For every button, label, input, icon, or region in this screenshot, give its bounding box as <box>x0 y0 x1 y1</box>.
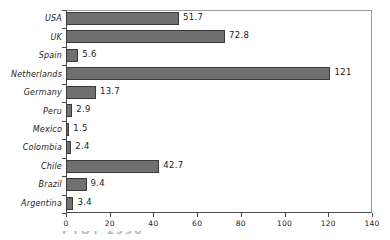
x-axis-tick <box>66 213 67 217</box>
x-axis-tick-label: 60 <box>192 219 202 228</box>
y-axis-label-uk: UK <box>0 33 62 43</box>
y-axis-label-argentina: Argentina <box>0 199 62 209</box>
x-axis-tick-label: 100 <box>277 219 292 228</box>
bar-value-label: 3.4 <box>77 196 91 209</box>
y-axis-tick <box>62 102 66 103</box>
bar-row: 9.4 <box>66 176 372 194</box>
y-axis-tick <box>62 213 66 214</box>
y-axis-tick <box>62 195 66 196</box>
y-axis-label-usa: USA <box>0 14 62 24</box>
bar-value-label: 5.6 <box>82 48 96 61</box>
y-axis-label-spain: Spain <box>0 51 62 61</box>
bars-container: 51.772.85.612113.72.91.52.442.79.43.4 <box>66 10 372 213</box>
bar-row: 5.6 <box>66 47 372 65</box>
caption-clip: PTOT 1990 <box>62 231 202 240</box>
x-axis-tick <box>285 213 286 217</box>
bar-row: 2.9 <box>66 102 372 120</box>
bar[interactable] <box>66 49 78 62</box>
bar[interactable] <box>66 67 330 80</box>
x-axis-tick-label: 0 <box>63 219 68 228</box>
y-axis-tick <box>62 121 66 122</box>
x-axis-tick-label: 80 <box>236 219 246 228</box>
x-axis-tick-label: 20 <box>105 219 115 228</box>
bar-value-label: 1.5 <box>73 122 87 135</box>
bar[interactable] <box>66 197 73 210</box>
x-axis-tick <box>197 213 198 217</box>
bar-value-label: 72.8 <box>229 29 249 42</box>
y-axis-tick <box>62 65 66 66</box>
x-axis-tick <box>372 213 373 217</box>
x-axis-tick-label: 140 <box>364 219 379 228</box>
bar-value-label: 13.7 <box>100 85 120 98</box>
y-axis-tick <box>62 176 66 177</box>
x-axis-tick <box>110 213 111 217</box>
bar-row: 72.8 <box>66 28 372 46</box>
bar-value-label: 42.7 <box>163 159 183 172</box>
y-axis-tick <box>62 47 66 48</box>
bar[interactable] <box>66 104 72 117</box>
chart-caption: PTOT 1990 <box>62 231 143 236</box>
y-axis-tick <box>62 139 66 140</box>
y-axis-label-mexico: Mexico <box>0 125 62 135</box>
x-axis-tick-label: 120 <box>321 219 336 228</box>
y-axis-tick <box>62 10 66 11</box>
bar-row: 3.4 <box>66 195 372 213</box>
bar-row: 2.4 <box>66 139 372 157</box>
bar[interactable] <box>66 141 71 154</box>
x-axis-tick <box>153 213 154 217</box>
bar-row: 51.7 <box>66 10 372 28</box>
bar-row: 121 <box>66 65 372 83</box>
y-axis-label-netherlands: Netherlands <box>0 70 62 80</box>
bar[interactable] <box>66 12 179 25</box>
y-axis-tick <box>62 158 66 159</box>
y-axis-category-labels: USAUKSpainNetherlandsGermanyPeruMexicoCo… <box>0 10 62 213</box>
x-axis-tick <box>241 213 242 217</box>
y-axis-tick <box>62 84 66 85</box>
y-axis-label-colombia: Colombia <box>0 143 62 153</box>
y-axis-label-brazil: Brazil <box>0 180 62 190</box>
y-axis-tick <box>62 28 66 29</box>
bar-row: 1.5 <box>66 121 372 139</box>
bar-row: 13.7 <box>66 84 372 102</box>
bar[interactable] <box>66 86 96 99</box>
bar-value-label: 2.9 <box>76 103 90 116</box>
bar-value-label: 51.7 <box>183 11 203 24</box>
y-axis-label-chile: Chile <box>0 162 62 172</box>
bar[interactable] <box>66 30 225 43</box>
x-axis-tick-label: 40 <box>148 219 158 228</box>
bar[interactable] <box>66 178 87 191</box>
bar-chart: USAUKSpainNetherlandsGermanyPeruMexicoCo… <box>0 0 390 240</box>
y-axis-label-peru: Peru <box>0 107 62 117</box>
bar-value-label: 9.4 <box>91 177 105 190</box>
bar-value-label: 2.4 <box>75 140 89 153</box>
y-axis-label-germany: Germany <box>0 88 62 98</box>
x-axis-tick <box>328 213 329 217</box>
bar-value-label: 121 <box>334 66 351 79</box>
bar-row: 42.7 <box>66 158 372 176</box>
bar[interactable] <box>66 123 69 136</box>
bar[interactable] <box>66 160 159 173</box>
